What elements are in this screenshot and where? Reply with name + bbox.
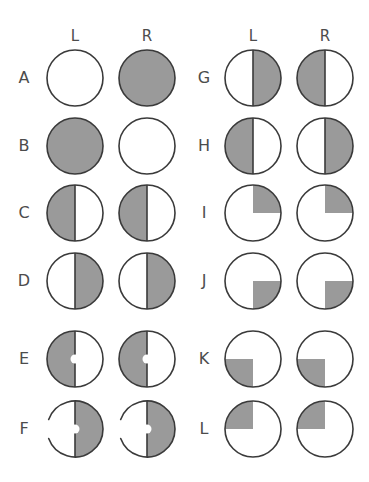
row-label-k: K	[199, 349, 210, 368]
row-label-e: E	[19, 349, 29, 368]
row-label-h: H	[198, 136, 210, 155]
row-label-b: B	[19, 136, 30, 155]
row-label-i: I	[202, 203, 207, 222]
row-label-a: A	[19, 68, 30, 87]
row-label-f: F	[19, 419, 28, 438]
column-header-l: L	[249, 27, 258, 45]
center-dot	[71, 425, 80, 434]
column-header-r: R	[142, 27, 152, 45]
center-dot	[71, 355, 80, 364]
circle-b-l	[47, 118, 103, 174]
row-label-c: C	[18, 203, 29, 222]
column-header-l: L	[71, 27, 80, 45]
circle-a-r	[119, 50, 175, 106]
column-header-r: R	[320, 27, 330, 45]
row-label-d: D	[18, 271, 30, 290]
diagram-canvas: LRABCDEFLRGHIJKL	[0, 0, 369, 482]
row-label-g: G	[198, 68, 210, 87]
center-dot	[143, 355, 152, 364]
row-label-l: L	[200, 419, 209, 438]
center-dot	[143, 425, 152, 434]
row-label-j: J	[201, 271, 207, 290]
